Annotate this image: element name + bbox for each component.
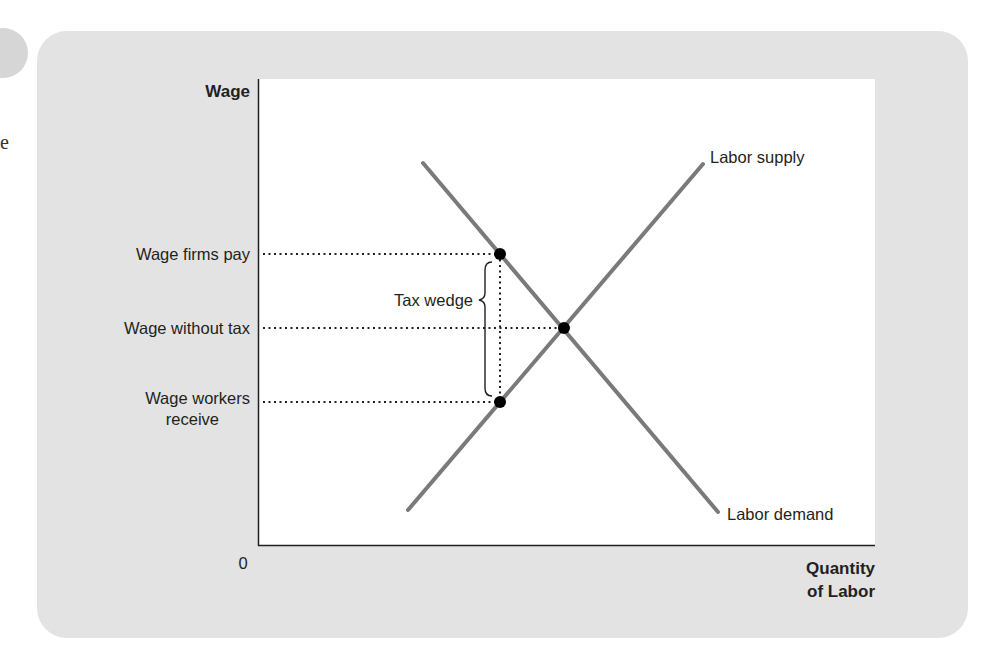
tax-wedge-chart: Wage Wage firms pay Wage without tax Wag…	[0, 0, 1002, 668]
wage-workers-receive-label-line1: Wage workers	[145, 389, 250, 407]
y-axis-label: Wage	[205, 82, 250, 101]
tax-wedge-label: Tax wedge	[394, 291, 473, 309]
workers-receive-point	[494, 396, 506, 408]
labor-demand-label: Labor demand	[727, 505, 833, 523]
origin-label: 0	[238, 554, 247, 572]
wage-without-tax-label: Wage without tax	[124, 319, 251, 337]
firms-pay-point	[494, 248, 506, 260]
wage-firms-pay-label: Wage firms pay	[136, 245, 251, 263]
x-axis-label-line2: of Labor	[807, 582, 875, 601]
equilibrium-point	[558, 322, 570, 334]
wage-workers-receive-label-line2: receive	[166, 410, 219, 428]
labor-supply-label: Labor supply	[710, 148, 805, 166]
x-axis-label-line1: Quantity	[806, 559, 875, 578]
